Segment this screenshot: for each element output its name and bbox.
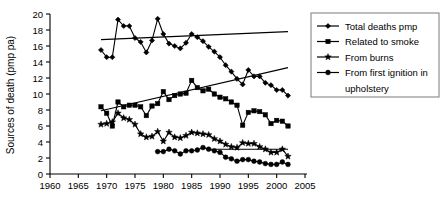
data-point — [172, 43, 177, 48]
data-point — [206, 147, 211, 152]
data-point — [110, 55, 115, 60]
y-axis-title-text: Sources of death (pmp pa) — [5, 36, 16, 154]
data-point — [104, 111, 108, 115]
legend-label: upholstery — [345, 83, 389, 94]
data-point — [256, 143, 262, 149]
data-point — [263, 161, 268, 166]
data-point — [229, 156, 234, 161]
data-point — [160, 138, 166, 144]
data-point — [161, 31, 166, 36]
data-point — [167, 147, 172, 152]
data-point — [121, 105, 125, 109]
data-point — [172, 148, 177, 153]
series-square — [99, 78, 290, 128]
legend-label: From burns — [345, 52, 394, 63]
data-point — [144, 113, 148, 117]
chart-legend: Total deaths pmpRelated to smokeFrom bur… — [311, 13, 439, 97]
data-point — [116, 100, 120, 104]
y-tick-label: 6 — [38, 121, 43, 132]
data-point — [150, 104, 154, 108]
data-point — [189, 148, 194, 153]
y-tick-label: 18 — [32, 25, 43, 36]
y-tick-label: 14 — [32, 57, 43, 68]
y-axis-title: Sources of death (pmp pa) — [5, 36, 16, 154]
data-point — [223, 97, 227, 101]
data-point — [195, 148, 200, 153]
data-point — [155, 16, 160, 21]
data-point — [201, 145, 206, 150]
data-point — [184, 91, 188, 95]
data-point — [229, 100, 233, 104]
data-point — [98, 121, 104, 127]
data-point — [183, 132, 189, 138]
data-point — [149, 38, 154, 43]
data-point — [172, 93, 176, 97]
data-point — [167, 97, 171, 101]
data-point — [218, 150, 223, 155]
data-point — [161, 89, 165, 93]
x-tick-label: 1965 — [68, 180, 89, 191]
data-point — [246, 110, 250, 114]
data-point — [161, 149, 166, 154]
line-chart: Sources of death (pmp pa) 02468101214161… — [0, 0, 443, 203]
x-tick-label: 1990 — [209, 180, 230, 191]
x-tick-label: 1960 — [39, 180, 60, 191]
y-axis-ticks: 02468101214161820 — [32, 9, 50, 180]
data-point — [245, 140, 251, 146]
data-point — [269, 162, 274, 167]
legend-label: Total deaths pmp — [345, 21, 417, 32]
legend-item-4[interactable]: upholstery — [345, 83, 389, 94]
x-tick-label: 1975 — [124, 180, 145, 191]
data-point — [143, 134, 149, 140]
x-tick-label: 2000 — [266, 180, 287, 191]
data-point — [189, 78, 193, 82]
y-tick-label: 12 — [32, 73, 43, 84]
data-point — [127, 103, 131, 107]
x-tick-label: 1970 — [96, 180, 117, 191]
data-point — [286, 162, 291, 167]
data-point — [138, 105, 142, 109]
data-point — [252, 159, 257, 164]
y-tick-label: 4 — [38, 137, 43, 148]
data-point — [280, 160, 285, 165]
data-point — [211, 135, 217, 141]
data-point — [195, 85, 199, 89]
data-point — [235, 103, 239, 107]
x-tick-label: 2005 — [294, 180, 315, 191]
data-point — [240, 157, 245, 162]
series-diamond — [98, 16, 290, 98]
x-tick-label: 1980 — [153, 180, 174, 191]
data-point — [222, 141, 228, 147]
data-point — [206, 87, 210, 91]
data-point — [166, 41, 171, 46]
y-tick-label: 16 — [32, 41, 43, 52]
data-point — [201, 89, 205, 93]
data-point — [155, 149, 160, 154]
data-point — [268, 149, 274, 155]
y-tick-label: 2 — [38, 153, 43, 164]
data-point — [280, 119, 284, 123]
data-point — [223, 155, 228, 160]
data-point — [212, 92, 216, 96]
data-point — [240, 123, 244, 127]
legend-label: From first ignition in — [345, 67, 428, 78]
data-point — [257, 160, 262, 165]
data-point — [274, 162, 279, 167]
data-point — [144, 50, 149, 55]
data-point — [99, 105, 103, 109]
y-tick-label: 10 — [32, 89, 43, 100]
series-circle — [155, 145, 290, 167]
y-tick-label: 0 — [38, 169, 43, 180]
data-point — [257, 109, 261, 113]
data-point — [269, 121, 273, 125]
data-point — [235, 159, 240, 164]
x-tick-label: 1985 — [181, 180, 202, 191]
x-tick-label: 1995 — [238, 180, 259, 191]
data-point — [252, 109, 256, 113]
data-point — [274, 118, 278, 122]
data-point — [212, 148, 217, 153]
legend-marker-circle — [326, 70, 331, 75]
data-point — [218, 95, 222, 99]
data-point — [246, 157, 251, 162]
data-point — [184, 148, 189, 153]
